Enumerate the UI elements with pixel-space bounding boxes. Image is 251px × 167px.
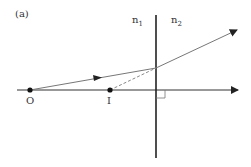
image-label: I	[107, 96, 111, 106]
object-label: O	[26, 96, 34, 106]
virtual-ray-dashed	[110, 68, 156, 90]
refracted-ray	[156, 30, 237, 68]
right-angle-marker	[156, 90, 165, 98]
medium-label-n1: n1	[132, 15, 143, 28]
n1-subscript: 1	[138, 20, 142, 28]
panel-label: (a)	[15, 9, 29, 19]
n2-subscript: 2	[177, 20, 181, 28]
medium-label-n2: n2	[171, 15, 182, 28]
incident-ray	[30, 68, 156, 90]
incident-ray-arrow-icon	[93, 75, 102, 81]
object-point	[27, 87, 32, 92]
image-point	[107, 87, 112, 92]
refraction-diagram	[0, 0, 251, 167]
